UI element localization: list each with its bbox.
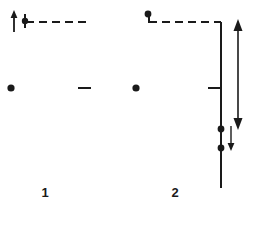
panel-2-line-dot-upper xyxy=(218,126,225,133)
panel-1-free-dot xyxy=(7,84,14,91)
line-diagram-svg: 1 2 xyxy=(0,0,274,229)
panel-2-label: 2 xyxy=(171,185,178,200)
figure-canvas: 1 2 xyxy=(0,0,274,229)
panel-1-label: 1 xyxy=(41,185,48,200)
panel-2-line-dot-lower xyxy=(218,145,225,152)
panel-2-free-dot xyxy=(132,84,139,91)
